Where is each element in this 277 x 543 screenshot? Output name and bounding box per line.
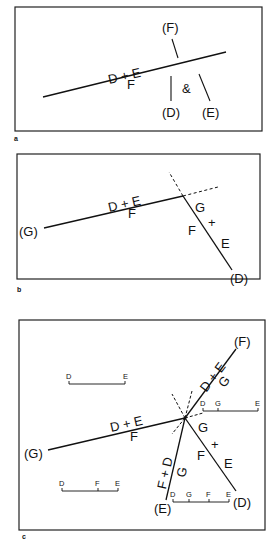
panel-c-scale-dfe: D F E bbox=[59, 479, 120, 491]
panel-c: (G) (F) (D) (E) D + E F D + E G G F + E … bbox=[19, 320, 265, 530]
scale-de-d: D bbox=[66, 372, 72, 381]
panel-b-g-paren-label: (G) bbox=[19, 224, 38, 239]
panel-a-f-paren-label: (F) bbox=[162, 20, 179, 35]
panel-a-amp-label: & bbox=[182, 81, 191, 96]
panel-c-e-paren-label: (E) bbox=[154, 501, 171, 516]
panel-b-plus-label: + bbox=[208, 215, 216, 230]
panel-c-letter: c bbox=[22, 533, 26, 540]
scale-dgfe-g: G bbox=[186, 490, 192, 499]
panel-c-sw-lower-label: G bbox=[173, 465, 190, 478]
panel-a-e-tick bbox=[199, 74, 210, 101]
panel-c-sw-upper-label: F + D bbox=[154, 456, 176, 491]
panel-a-upper-label: D + E bbox=[107, 65, 143, 87]
panel-c-se-f-label: F bbox=[197, 448, 205, 463]
panel-c-f-paren-label: (F) bbox=[234, 334, 251, 349]
panel-b-f-label: F bbox=[188, 223, 196, 238]
panel-b-lower-label: F bbox=[128, 206, 136, 221]
panel-c-se-line bbox=[185, 418, 236, 491]
scale-dfe-f: F bbox=[95, 479, 100, 488]
panel-b-upper-label: D + E bbox=[107, 193, 143, 215]
scale-de-e: E bbox=[123, 372, 128, 381]
panel-c-g-paren-label: (G) bbox=[24, 446, 43, 461]
scale-dgfe-e: E bbox=[226, 490, 231, 499]
panel-a-d-paren-label: (D) bbox=[162, 105, 180, 120]
panel-b-g-label: G bbox=[195, 200, 205, 215]
panel-c-scale-dge: D G E bbox=[200, 399, 260, 411]
scale-dgfe-d: D bbox=[170, 490, 176, 499]
panel-c-d-paren-label: (D) bbox=[233, 495, 251, 510]
panel-a-lower-label: F bbox=[127, 77, 135, 92]
scale-dge-g: G bbox=[215, 399, 221, 408]
panel-c-scale-de: D E bbox=[66, 372, 128, 384]
figure-canvas: (F) (D) (E) & D + E F a (G) (D) D + E F … bbox=[0, 0, 277, 543]
panel-c-se-g-label: G bbox=[198, 420, 208, 435]
panel-c-center-point bbox=[184, 417, 187, 420]
panel-a-e-paren-label: (E) bbox=[202, 105, 219, 120]
scale-dfe-d: D bbox=[59, 479, 65, 488]
panel-a-letter: a bbox=[14, 135, 18, 142]
panel-c-se-plus-label: + bbox=[211, 437, 219, 452]
panel-c-dashed-nw bbox=[172, 394, 185, 418]
panel-b-d-paren-label: (D) bbox=[230, 271, 248, 286]
panel-c-se-e-label: E bbox=[224, 456, 233, 471]
panel-b-e-label: E bbox=[221, 236, 230, 251]
scale-dge-e: E bbox=[255, 399, 260, 408]
panel-c-west-lower-label: F bbox=[130, 429, 138, 444]
panel-b-east-dashed bbox=[183, 187, 218, 196]
panel-b-letter: b bbox=[17, 286, 21, 293]
panel-b-nw-dashed bbox=[169, 172, 183, 196]
scale-dge-d: D bbox=[200, 399, 206, 408]
panel-b-frame bbox=[17, 154, 260, 279]
panel-a: (F) (D) (E) & D + E F bbox=[15, 7, 262, 131]
panel-b: (G) (D) D + E F G F + E bbox=[17, 154, 260, 286]
panel-c-scale-dgfe: D G F E bbox=[170, 490, 231, 502]
panel-a-f-tick bbox=[172, 39, 178, 58]
scale-dgfe-f: F bbox=[206, 490, 211, 499]
scale-dfe-e: E bbox=[115, 479, 120, 488]
